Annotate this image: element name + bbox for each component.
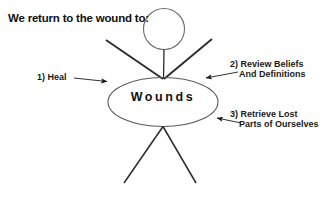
- stick-figure-left-leg: [124, 127, 163, 184]
- diagram-canvas: We return to the wound to: Wounds 1) Hea…: [0, 0, 329, 197]
- wounds-center-label: Wounds: [108, 90, 218, 104]
- callout-retrieve-lost-parts: 3) Retrieve Lost Parts of Ourselves: [230, 109, 319, 129]
- callout-heal-line1: 1) Heal: [37, 72, 67, 82]
- callout-review-beliefs-line2: And Definitions: [230, 69, 306, 79]
- stick-figure-right-leg: [163, 127, 196, 184]
- stick-figure-head-circle: [144, 9, 185, 50]
- arrow-heal: [74, 78, 107, 82]
- stick-figure-right-arm: [164, 39, 212, 79]
- callout-retrieve-lost-parts-line2: Parts of Ourselves: [230, 119, 319, 129]
- callout-review-beliefs: 2) Review Beliefs And Definitions: [230, 59, 306, 79]
- stick-figure-torso-line: [164, 50, 165, 80]
- stick-figure-left-arm: [106, 40, 163, 79]
- callout-review-beliefs-line1: 2) Review Beliefs: [230, 59, 304, 69]
- callout-retrieve-lost-parts-line1: 3) Retrieve Lost: [230, 109, 298, 119]
- diagram-title: We return to the wound to:: [8, 12, 149, 25]
- callout-heal: 1) Heal: [37, 72, 67, 82]
